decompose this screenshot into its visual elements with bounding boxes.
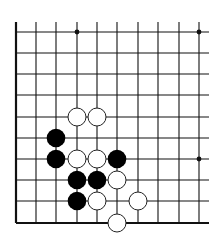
black-stone	[88, 171, 107, 190]
black-stone	[68, 192, 87, 211]
white-stone	[68, 108, 86, 126]
white-stone	[108, 214, 126, 232]
black-stone	[108, 150, 127, 169]
black-stone	[68, 171, 87, 190]
white-stone	[88, 108, 106, 126]
white-stone	[108, 171, 126, 189]
star-point-icon	[197, 157, 202, 162]
white-stone	[88, 150, 106, 168]
black-stone	[47, 129, 66, 148]
white-stone	[88, 192, 106, 210]
go-board	[0, 0, 224, 245]
white-stone	[68, 150, 86, 168]
star-point-icon	[75, 30, 80, 35]
black-stone	[47, 150, 66, 169]
white-stone	[129, 192, 147, 210]
star-point-icon	[197, 30, 202, 35]
grid-lines	[16, 22, 209, 223]
